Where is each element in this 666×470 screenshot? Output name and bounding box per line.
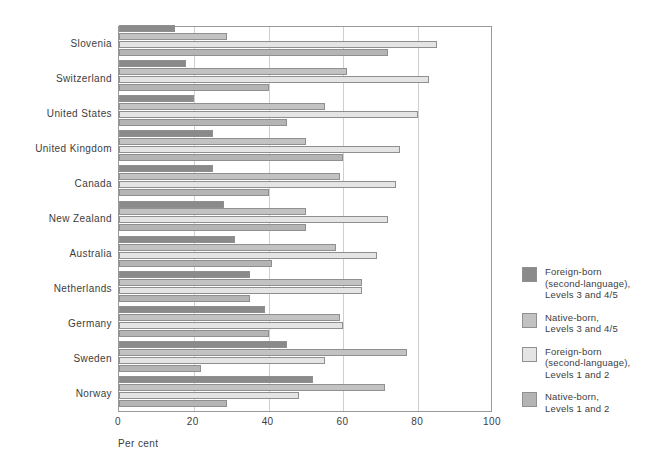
bar — [119, 33, 227, 40]
bar-row — [119, 271, 491, 278]
x-axis-title: Per cent — [118, 438, 158, 449]
bar-chart: SloveniaSwitzerlandUnited StatesUnited K… — [0, 0, 666, 470]
bar-row — [119, 181, 491, 188]
bar — [119, 376, 313, 383]
bar-group — [119, 343, 491, 378]
bar — [119, 236, 235, 243]
bar-row — [119, 208, 491, 215]
legend-label: Native-born, Levels 3 and 4/5 — [545, 312, 618, 335]
bar — [119, 146, 400, 153]
bar — [119, 76, 429, 83]
bar — [119, 130, 213, 137]
bar-row — [119, 400, 491, 407]
bar — [119, 41, 437, 48]
bar — [119, 279, 362, 286]
bar-row — [119, 76, 491, 83]
bar — [119, 84, 269, 91]
legend-item-native-born-levels-1-2: Native-born, Levels 1 and 2 — [522, 391, 662, 414]
bar-row — [119, 279, 491, 286]
bar-row — [119, 306, 491, 313]
y-axis-labels: SloveniaSwitzerlandUnited StatesUnited K… — [0, 26, 112, 412]
bar-group — [119, 308, 491, 343]
bar-row — [119, 173, 491, 180]
x-tick-label: 100 — [483, 416, 501, 427]
bar-row — [119, 60, 491, 67]
bar — [119, 138, 306, 145]
x-axis-ticks: 020406080100 — [118, 416, 492, 432]
x-tick-label: 80 — [411, 416, 423, 427]
bar-row — [119, 138, 491, 145]
legend-label: Foreign-born (second-language), Levels 3… — [545, 266, 630, 301]
bar-row — [119, 130, 491, 137]
y-axis-label-new-zealand: New Zealand — [0, 213, 112, 224]
bar-group — [119, 202, 491, 237]
bar-group — [119, 238, 491, 273]
legend-item-native-born-levels-3-45: Native-born, Levels 3 and 4/5 — [522, 312, 662, 335]
bar — [119, 68, 347, 75]
bar — [119, 260, 272, 267]
bar-row — [119, 295, 491, 302]
bar — [119, 49, 388, 56]
bar — [119, 95, 194, 102]
bar-row — [119, 49, 491, 56]
bar-row — [119, 252, 491, 259]
x-tick-label: 0 — [115, 416, 121, 427]
y-axis-label-switzerland: Switzerland — [0, 73, 112, 84]
bar-group — [119, 273, 491, 308]
bar-row — [119, 68, 491, 75]
bar-row — [119, 349, 491, 356]
bar — [119, 165, 213, 172]
bar — [119, 111, 418, 118]
bar — [119, 189, 269, 196]
bar — [119, 322, 343, 329]
bar-row — [119, 165, 491, 172]
plot-area — [118, 26, 492, 412]
legend-label: Foreign-born (second-language), Levels 1… — [545, 346, 630, 381]
bar-row — [119, 146, 491, 153]
x-tick-label: 20 — [187, 416, 199, 427]
y-axis-label-slovenia: Slovenia — [0, 38, 112, 49]
bar — [119, 357, 325, 364]
bar-row — [119, 103, 491, 110]
bar-row — [119, 154, 491, 161]
bar — [119, 330, 269, 337]
bar-row — [119, 33, 491, 40]
legend-label: Native-born, Levels 1 and 2 — [545, 391, 610, 414]
bar-row — [119, 236, 491, 243]
bar — [119, 252, 377, 259]
bar-row — [119, 41, 491, 48]
bar-row — [119, 365, 491, 372]
bar-row — [119, 384, 491, 391]
bar — [119, 103, 325, 110]
y-axis-label-norway: Norway — [0, 388, 112, 399]
bar-row — [119, 95, 491, 102]
bar — [119, 181, 396, 188]
bars-layer — [119, 27, 491, 411]
legend-item-foreign-born-levels-1-2: Foreign-born (second-language), Levels 1… — [522, 346, 662, 381]
bar-row — [119, 25, 491, 32]
bar-row — [119, 330, 491, 337]
bar-row — [119, 119, 491, 126]
bar-row — [119, 392, 491, 399]
x-tick-label: 60 — [336, 416, 348, 427]
bar-row — [119, 287, 491, 294]
legend-swatch-native-born-levels-1-2 — [522, 392, 537, 407]
bar-row — [119, 260, 491, 267]
y-axis-label-germany: Germany — [0, 318, 112, 329]
bar — [119, 244, 336, 251]
bar — [119, 224, 306, 231]
bar — [119, 271, 250, 278]
y-axis-label-united-states: United States — [0, 108, 112, 119]
x-tick-label: 40 — [262, 416, 274, 427]
bar-group — [119, 27, 491, 62]
bar-group — [119, 97, 491, 132]
bar-row — [119, 216, 491, 223]
bar — [119, 349, 407, 356]
bar-row — [119, 189, 491, 196]
bar — [119, 119, 287, 126]
y-axis-label-netherlands: Netherlands — [0, 283, 112, 294]
legend-swatch-native-born-levels-3-45 — [522, 313, 537, 328]
bar — [119, 314, 340, 321]
bar-group — [119, 132, 491, 167]
bar-group — [119, 62, 491, 97]
